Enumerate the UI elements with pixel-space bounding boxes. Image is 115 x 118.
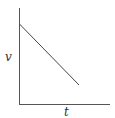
- velocity-line: [20, 24, 80, 85]
- velocity-time-graph: v t: [0, 0, 115, 118]
- y-axis-label: v: [5, 50, 12, 64]
- x-axis-label: t: [64, 105, 69, 118]
